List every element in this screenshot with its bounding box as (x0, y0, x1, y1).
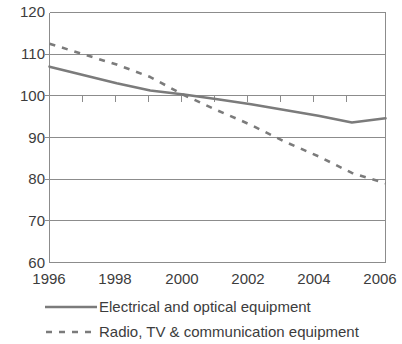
legend-item-electrical-and-optical-equipment: Electrical and optical equipment (45, 298, 311, 315)
y-tick-marks (45, 54, 50, 221)
series-line-radio-tv-and-communication-equipment (50, 44, 386, 184)
legend-label-electrical-and-optical-equipment: Electrical and optical equipment (99, 298, 311, 315)
x-tick-label-2002: 2002 (225, 271, 271, 286)
x-tick-label-1998: 1998 (92, 271, 138, 286)
legend-swatch-dashed-line (45, 326, 97, 338)
legend-swatch-solid-line (45, 301, 97, 313)
line-chart: 120 110 100 90 80 70 60 (0, 0, 402, 344)
legend-item-radio-tv-and-communication-equipment: Radio, TV & communication equipment (45, 323, 359, 340)
plot-area (0, 0, 402, 290)
gridlines (50, 13, 386, 263)
x-tick-label-2004: 2004 (291, 271, 337, 286)
x-tick-label-1996: 1996 (26, 271, 72, 286)
legend-label-radio-tv-and-communication-equipment: Radio, TV & communication equipment (99, 323, 359, 340)
x-tick-label-2000: 2000 (159, 271, 205, 286)
x-tick-label-2006: 2006 (357, 271, 402, 286)
series-line-electrical-and-optical-equipment (50, 67, 386, 123)
